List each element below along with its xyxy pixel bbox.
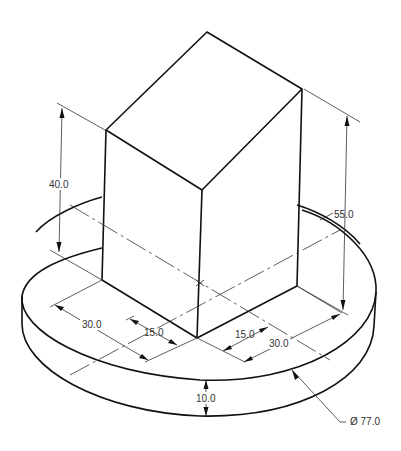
center-lines — [70, 205, 340, 375]
dim-base-thickness: 10.0 — [195, 380, 217, 416]
block-front-edge — [197, 190, 202, 338]
dim-text-diameter: Ø 77.0 — [350, 416, 380, 427]
dim-text-30-right: 30.0 — [269, 338, 289, 349]
block-left-edge — [102, 130, 106, 280]
center-line-2 — [70, 230, 340, 375]
dim-text-15-right: 15.0 — [235, 329, 255, 340]
dim-base-diameter: Ø 77.0 — [292, 370, 380, 427]
dim-left-height: 40.0 — [48, 103, 105, 280]
dim-text-55: 55.0 — [334, 209, 354, 220]
base-disc — [22, 210, 376, 416]
dim-text-15-left: 15.0 — [144, 327, 164, 338]
dim-text-40: 40.0 — [49, 179, 69, 190]
technical-drawing: 40.0 55.0 30.0 15.0 15.0 — [0, 0, 401, 451]
block-top-face — [106, 32, 302, 190]
center-mark — [196, 280, 204, 286]
dim-text-30-left: 30.0 — [82, 319, 102, 330]
base-back-arc-left — [36, 197, 102, 232]
block-right-edge — [297, 89, 302, 286]
dim-right-height: 55.0 — [297, 89, 360, 315]
block — [36, 32, 360, 338]
dim-text-10: 10.0 — [196, 393, 216, 404]
